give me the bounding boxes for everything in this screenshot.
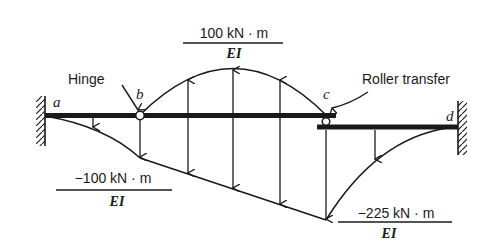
svg-text:EI: EI	[109, 194, 125, 209]
point-label-a: a	[53, 94, 61, 110]
point-label-c: c	[323, 86, 330, 102]
moment-label-top: 100 kN · m EI	[183, 25, 283, 61]
hinge-b	[136, 111, 144, 119]
point-label-b: b	[136, 86, 144, 102]
downward-load-arrows	[93, 118, 375, 219]
svg-text:−225 kN · m: −225 kN · m	[358, 205, 435, 221]
hinge-label: Hinge	[68, 71, 105, 87]
moment-label-left: −100 kN · m EI	[56, 170, 172, 209]
svg-text:EI: EI	[226, 46, 242, 61]
fixed-support-d	[458, 101, 467, 155]
roller-pointer	[332, 92, 368, 108]
roller-c	[322, 118, 330, 126]
fixed-support-a	[36, 96, 45, 146]
point-label-d: d	[446, 108, 454, 124]
conjugate-beam-diagram: a b c d Hinge Roller transfer 100 kN · m…	[0, 0, 502, 250]
svg-text:100 kN · m: 100 kN · m	[200, 25, 268, 41]
svg-text:EI: EI	[381, 226, 397, 241]
roller-label: Roller transfer	[362, 71, 450, 87]
moment-label-right: −225 kN · m EI	[338, 205, 452, 241]
upward-load-arrows	[188, 70, 280, 118]
svg-text:−100 kN · m: −100 kN · m	[75, 170, 152, 186]
